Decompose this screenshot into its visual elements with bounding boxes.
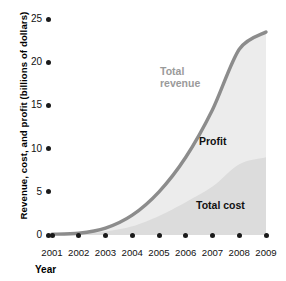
chart-plot-area: [0, 0, 286, 281]
x-axis-title: Year: [35, 264, 56, 275]
x-tick-label-2002: 2002: [64, 247, 94, 258]
y-tick-label-25: 25: [18, 13, 42, 24]
x-tick-dot-2001: [50, 233, 55, 238]
x-tick-label-2001: 2001: [37, 247, 67, 258]
x-tick-label-2008: 2008: [224, 247, 254, 258]
series-label-total-cost: Total cost: [196, 200, 245, 212]
x-tick-label-2005: 2005: [144, 247, 174, 258]
y-tick-label-5: 5: [18, 186, 42, 197]
x-tick-dot-2009: [264, 233, 269, 238]
x-tick-dot-2006: [183, 233, 188, 238]
y-tick-label-10: 10: [18, 143, 42, 154]
x-tick-dot-2004: [130, 233, 135, 238]
y-tick-dot-15: [46, 103, 51, 108]
x-tick-dot-2007: [210, 233, 215, 238]
y-tick-dot-20: [46, 60, 51, 65]
x-tick-dot-2005: [157, 233, 162, 238]
y-tick-dot-25: [46, 17, 51, 22]
x-tick-label-2009: 2009: [251, 247, 281, 258]
y-tick-label-20: 20: [18, 56, 42, 67]
x-tick-label-2003: 2003: [91, 247, 121, 258]
series-label-total-revenue: Total revenue: [160, 66, 200, 89]
x-tick-dot-2008: [237, 233, 242, 238]
chart-container: Revenue, cost, and profit (billions of d…: [0, 0, 286, 281]
x-tick-dot-2003: [103, 233, 108, 238]
x-tick-label-2004: 2004: [117, 247, 147, 258]
x-tick-label-2007: 2007: [198, 247, 228, 258]
series-label-profit: Profit: [199, 136, 226, 148]
x-tick-label-2006: 2006: [171, 247, 201, 258]
y-tick-label-0: 0: [18, 229, 42, 240]
y-tick-label-15: 15: [18, 99, 42, 110]
x-tick-dot-2002: [76, 233, 81, 238]
